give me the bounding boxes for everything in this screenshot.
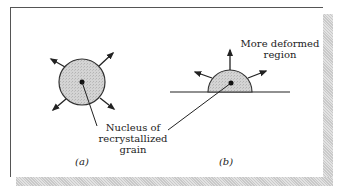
label-line: region: [240, 49, 320, 60]
panel-a-caption: (a): [70, 156, 94, 167]
recrystallization-diagram: [0, 0, 338, 195]
label-line: Nucleus of: [95, 122, 171, 133]
panel-b-caption: (b): [214, 156, 238, 167]
deformed-region-label: More deformed region: [240, 38, 320, 60]
growth-arrow-icon: [248, 71, 266, 78]
label-line: grain: [95, 144, 171, 155]
growth-arrow-icon: [195, 72, 212, 78]
panel-a-grain: [51, 53, 114, 126]
panel-b-grain: [168, 50, 290, 130]
label-line: More deformed: [240, 38, 320, 49]
label-line: recrystallized: [95, 133, 171, 144]
growth-arrow-icon: [51, 59, 65, 67]
growth-arrow-icon: [53, 99, 66, 110]
nucleus-label: Nucleus of recrystallized grain: [95, 122, 171, 155]
nucleus-leader-line: [168, 83, 231, 130]
growth-arrow-icon: [100, 98, 114, 109]
growth-arrow-icon: [99, 53, 113, 66]
